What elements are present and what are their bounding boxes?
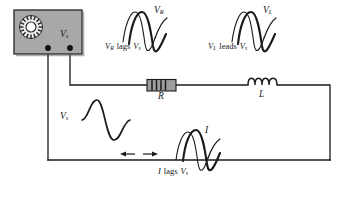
- wire-right-branch: [70, 54, 147, 85]
- generator-output-label: Vs: [60, 30, 68, 40]
- wire-l-to-right: [277, 85, 330, 160]
- rl-circuit-figure: Vs R L Vs VR VRlagsVs VL VLleadsVs I Ila…: [0, 0, 344, 199]
- current-phase-caption: IlagsVs: [158, 167, 188, 176]
- trace-i: [183, 130, 220, 170]
- source-waveform-label: Vs: [60, 112, 68, 122]
- terminal-left[interactable]: [45, 45, 51, 51]
- inductor-waveform-label: VL: [263, 6, 272, 16]
- current-waveform-pair: [176, 130, 220, 170]
- resistor-waveform-label: VR: [154, 6, 164, 16]
- dial-knob-icon[interactable]: [20, 16, 43, 39]
- inductor-coil-symbol[interactable]: [248, 78, 277, 85]
- current-direction-arrows: [120, 152, 158, 157]
- terminal-right[interactable]: [67, 45, 73, 51]
- inductor-phase-caption: VLleadsVs: [208, 42, 247, 51]
- ac-generator[interactable]: [14, 10, 84, 56]
- resistor-label: R: [158, 92, 164, 102]
- source-waveform: [82, 100, 130, 140]
- trace-vs-ref-i: [176, 132, 208, 170]
- resistor-phase-caption: VRlagsVs: [105, 42, 141, 51]
- arrow-right-icon: [143, 152, 158, 157]
- resistor-symbol[interactable]: [147, 80, 176, 92]
- inductor-label: L: [259, 90, 264, 100]
- current-waveform-label: I: [205, 126, 208, 136]
- arrow-left-icon: [120, 152, 135, 157]
